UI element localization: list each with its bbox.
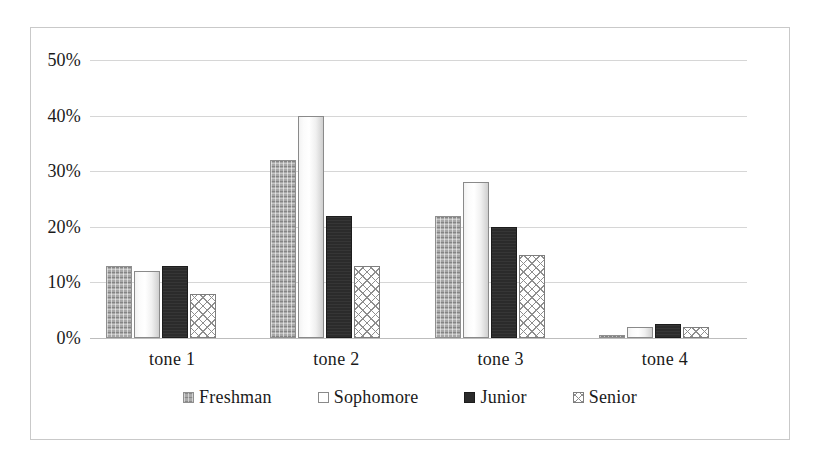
y-axis-tick-label: 0% xyxy=(57,328,81,349)
legend-item-sophomore[interactable]: Sophomore xyxy=(318,387,419,408)
chart-frame: 0%10%20%30%40%50%tone 1tone 2tone 3tone … xyxy=(30,27,790,440)
legend-label: Senior xyxy=(589,387,637,408)
legend-swatch-senior-icon xyxy=(573,392,584,403)
x-axis-category-label: tone 2 xyxy=(313,349,359,370)
bar-group: tone 2 xyxy=(254,60,418,338)
bar-sophomore[interactable] xyxy=(463,182,489,338)
legend-swatch-sophomore-icon xyxy=(318,392,329,403)
bar-freshman[interactable] xyxy=(270,160,296,338)
legend-item-freshman[interactable]: Freshman xyxy=(183,387,272,408)
bar-senior[interactable] xyxy=(190,294,216,338)
bar-junior[interactable] xyxy=(655,324,681,338)
bar-group: tone 1 xyxy=(90,60,254,338)
bar-freshman[interactable] xyxy=(435,216,461,338)
y-axis-tick-label: 10% xyxy=(47,272,81,293)
x-axis-category-label: tone 1 xyxy=(149,349,195,370)
bar-junior[interactable] xyxy=(162,266,188,338)
gridline-0%: 0% xyxy=(90,338,747,339)
bar-senior[interactable] xyxy=(519,255,545,338)
bar-group: tone 3 xyxy=(419,60,583,338)
y-axis-tick-label: 50% xyxy=(47,50,81,71)
legend-swatch-junior-icon xyxy=(464,392,475,403)
bar-senior[interactable] xyxy=(683,327,709,338)
legend-label: Junior xyxy=(480,387,526,408)
legend-item-junior[interactable]: Junior xyxy=(464,387,526,408)
bar-sophomore[interactable] xyxy=(134,271,160,338)
bar-freshman[interactable] xyxy=(106,266,132,338)
legend-label: Freshman xyxy=(199,387,272,408)
legend-label: Sophomore xyxy=(334,387,419,408)
y-axis-tick-label: 40% xyxy=(47,105,81,126)
legend-item-senior[interactable]: Senior xyxy=(573,387,637,408)
bar-freshman[interactable] xyxy=(599,335,625,338)
plot-area: 0%10%20%30%40%50%tone 1tone 2tone 3tone … xyxy=(90,60,747,338)
legend-swatch-freshman-icon xyxy=(183,392,194,403)
x-axis-category-label: tone 3 xyxy=(477,349,523,370)
x-axis-category-label: tone 4 xyxy=(642,349,688,370)
bar-sophomore[interactable] xyxy=(298,116,324,338)
bar-group-bars xyxy=(599,60,731,338)
bar-group-bars xyxy=(435,60,567,338)
bar-senior[interactable] xyxy=(354,266,380,338)
bar-group: tone 4 xyxy=(583,60,747,338)
bar-sophomore[interactable] xyxy=(627,327,653,338)
bar-junior[interactable] xyxy=(326,216,352,338)
y-axis-tick-label: 30% xyxy=(47,161,81,182)
bar-group-bars xyxy=(270,60,402,338)
bar-group-bars xyxy=(106,60,238,338)
y-axis-tick-label: 20% xyxy=(47,216,81,237)
chart-legend: FreshmanSophomoreJuniorSenior xyxy=(31,387,789,408)
bar-junior[interactable] xyxy=(491,227,517,338)
